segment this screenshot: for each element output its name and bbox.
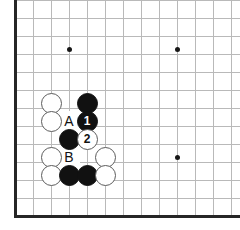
- grid-line-horizontal: [15, 198, 240, 199]
- grid-line-horizontal: [15, 36, 240, 37]
- grid-line-horizontal: [15, 72, 240, 73]
- stone-white[interactable]: [95, 165, 116, 186]
- grid-line-vertical: [195, 0, 196, 216]
- stone-white-move-2[interactable]: 2: [77, 129, 98, 150]
- goban[interactable]: AB12: [0, 0, 240, 230]
- star-point-icon: [67, 47, 72, 52]
- grid-line-vertical: [33, 0, 34, 216]
- go-board-diagram: AB12: [0, 0, 240, 230]
- board-bottom-border: [14, 215, 240, 218]
- star-point-icon: [175, 47, 180, 52]
- move-number-label: 1: [84, 115, 91, 127]
- grid-line-horizontal: [15, 144, 240, 145]
- grid-line-vertical: [177, 0, 178, 216]
- grid-line-horizontal: [15, 0, 240, 1]
- grid-line-vertical: [231, 0, 232, 216]
- grid-line-vertical: [159, 0, 160, 216]
- grid-line-vertical: [213, 0, 214, 216]
- star-point-icon: [175, 155, 180, 160]
- board-left-border: [14, 0, 17, 218]
- grid-line-horizontal: [15, 18, 240, 19]
- grid-line-vertical: [123, 0, 124, 216]
- stone-white[interactable]: [41, 111, 62, 132]
- grid-line-horizontal: [15, 54, 240, 55]
- grid-line-vertical: [141, 0, 142, 216]
- grid-line-horizontal: [15, 90, 240, 91]
- move-number-label: 2: [84, 133, 91, 145]
